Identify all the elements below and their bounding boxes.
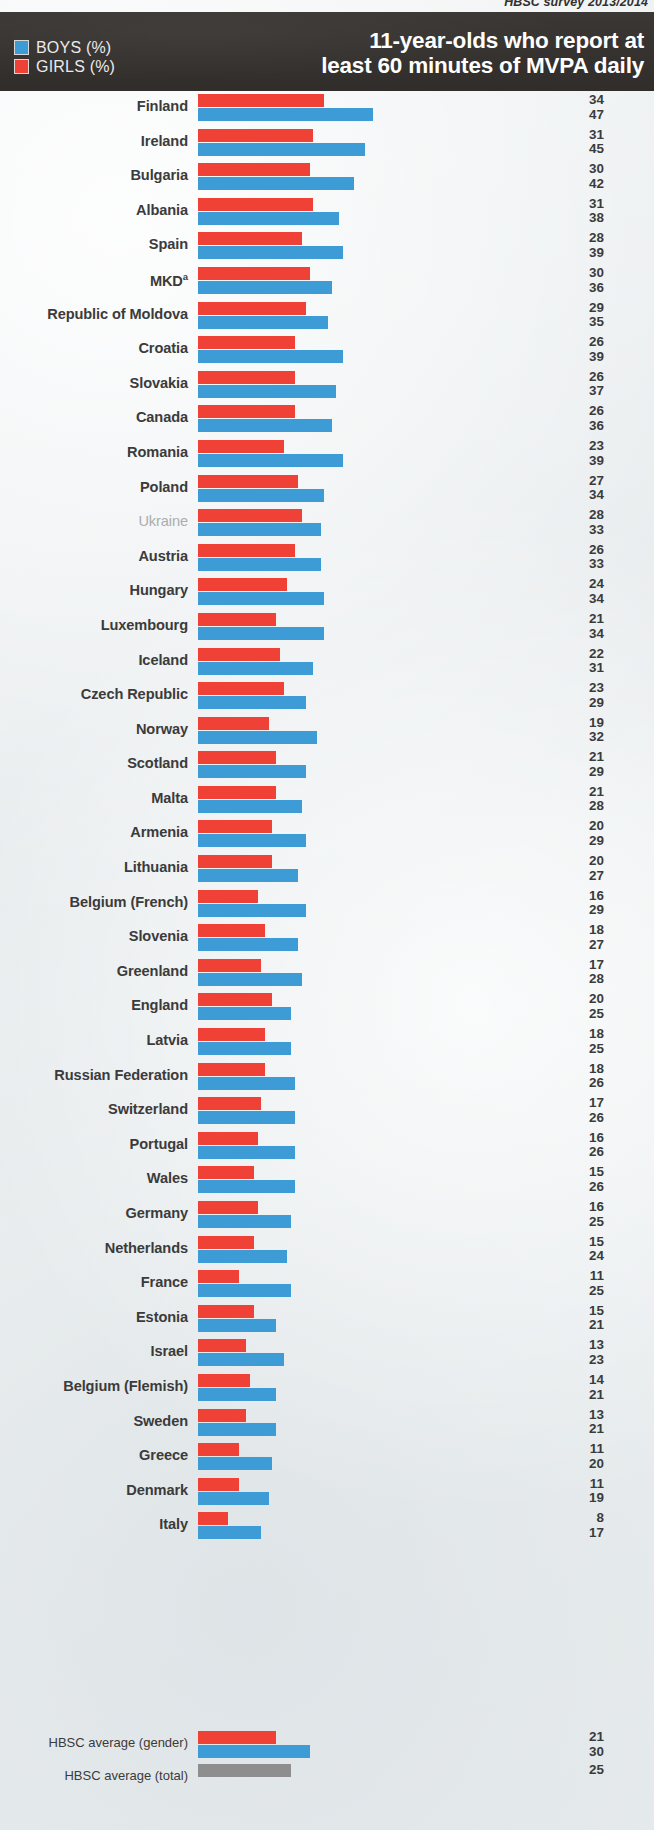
legend: BOYS (%) GIRLS (%) bbox=[14, 38, 115, 76]
value-boys: 26 bbox=[560, 1180, 604, 1195]
average-value-boys: 30 bbox=[560, 1745, 604, 1760]
value-girls: 31 bbox=[560, 197, 604, 212]
value-labels: 1119 bbox=[560, 1477, 604, 1506]
average-total-bars bbox=[198, 1764, 291, 1777]
country-label: England bbox=[0, 997, 188, 1013]
country-label: Belgium (Flemish) bbox=[0, 1378, 188, 1394]
value-labels: 2434 bbox=[560, 577, 604, 606]
bar-boys bbox=[198, 800, 302, 813]
table-row: Germany1625 bbox=[0, 1198, 654, 1233]
table-row: Republic of Moldova2935 bbox=[0, 299, 654, 334]
value-girls: 13 bbox=[560, 1338, 604, 1353]
legend-label-boys: BOYS (%) bbox=[36, 39, 111, 57]
table-row: Scotland2129 bbox=[0, 748, 654, 783]
bar-girls bbox=[198, 129, 313, 142]
table-row: Malta2128 bbox=[0, 783, 654, 818]
value-girls: 8 bbox=[560, 1511, 604, 1526]
value-boys: 38 bbox=[560, 211, 604, 226]
legend-swatch-boys bbox=[14, 40, 29, 55]
country-name: Switzerland bbox=[108, 1101, 188, 1117]
country-name: Estonia bbox=[136, 1309, 188, 1325]
table-row: Italy817 bbox=[0, 1509, 654, 1544]
country-label: Portugal bbox=[0, 1136, 188, 1152]
country-name: Greenland bbox=[117, 963, 188, 979]
value-boys: 29 bbox=[560, 903, 604, 918]
value-labels: 2639 bbox=[560, 335, 604, 364]
bar-group bbox=[198, 1512, 261, 1539]
value-boys: 29 bbox=[560, 765, 604, 780]
country-label: Croatia bbox=[0, 340, 188, 356]
bar-girls bbox=[198, 94, 324, 107]
bar-girls bbox=[198, 1166, 254, 1179]
value-boys: 28 bbox=[560, 972, 604, 987]
table-row: Wales1526 bbox=[0, 1163, 654, 1198]
value-labels: 1827 bbox=[560, 923, 604, 952]
bar-group bbox=[198, 1478, 269, 1505]
bar-group bbox=[198, 94, 373, 121]
value-labels: 2025 bbox=[560, 992, 604, 1021]
value-boys: 47 bbox=[560, 108, 604, 123]
bar-group bbox=[198, 613, 324, 640]
bar-boys bbox=[198, 419, 332, 432]
value-boys: 42 bbox=[560, 177, 604, 192]
value-girls: 26 bbox=[560, 370, 604, 385]
table-row: Canada2636 bbox=[0, 402, 654, 437]
value-labels: 817 bbox=[560, 1511, 604, 1540]
value-girls: 23 bbox=[560, 681, 604, 696]
value-girls: 15 bbox=[560, 1304, 604, 1319]
value-boys: 37 bbox=[560, 384, 604, 399]
value-labels: 2129 bbox=[560, 750, 604, 779]
bar-group bbox=[198, 475, 324, 502]
country-label: Belgium (French) bbox=[0, 894, 188, 910]
chart-title-line2: least 60 minutes of MVPA daily bbox=[224, 53, 644, 78]
value-labels: 1625 bbox=[560, 1200, 604, 1229]
value-boys: 28 bbox=[560, 799, 604, 814]
value-girls: 19 bbox=[560, 716, 604, 731]
bar-group bbox=[198, 302, 328, 329]
bar-girls bbox=[198, 267, 310, 280]
bar-group bbox=[198, 163, 354, 190]
value-girls: 15 bbox=[560, 1165, 604, 1180]
footnote-marker: a bbox=[183, 271, 188, 282]
bar-girls bbox=[198, 440, 284, 453]
country-name: Finland bbox=[137, 98, 188, 114]
legend-item-boys: BOYS (%) bbox=[14, 38, 115, 57]
table-row: Sweden1321 bbox=[0, 1406, 654, 1441]
table-row: Latvia1825 bbox=[0, 1025, 654, 1060]
country-name: Israel bbox=[150, 1343, 188, 1359]
country-name: Slovakia bbox=[130, 375, 188, 391]
value-boys: 27 bbox=[560, 938, 604, 953]
bar-group bbox=[198, 578, 324, 605]
bar-girls bbox=[198, 648, 280, 661]
bar-girls bbox=[198, 544, 295, 557]
country-name: Iceland bbox=[138, 652, 188, 668]
country-name: Slovenia bbox=[129, 928, 188, 944]
bar-group bbox=[198, 1374, 276, 1401]
table-row: Netherlands1524 bbox=[0, 1233, 654, 1268]
bar-boys bbox=[198, 212, 339, 225]
value-girls: 30 bbox=[560, 162, 604, 177]
bar-group bbox=[198, 405, 332, 432]
bar-boys bbox=[198, 108, 373, 121]
value-boys: 19 bbox=[560, 1491, 604, 1506]
bar-girls bbox=[198, 336, 295, 349]
value-boys: 34 bbox=[560, 627, 604, 642]
bar-boys bbox=[198, 1353, 284, 1366]
table-row: Austria2633 bbox=[0, 541, 654, 576]
country-label: Canada bbox=[0, 409, 188, 425]
value-labels: 1726 bbox=[560, 1096, 604, 1125]
country-label: Hungary bbox=[0, 582, 188, 598]
bar-girls bbox=[198, 613, 276, 626]
value-boys: 39 bbox=[560, 246, 604, 261]
value-labels: 3036 bbox=[560, 266, 604, 295]
value-boys: 24 bbox=[560, 1249, 604, 1264]
bar-boys bbox=[198, 938, 298, 951]
table-row: MKDa3036 bbox=[0, 264, 654, 299]
bar-girls bbox=[198, 1270, 239, 1283]
country-label: Italy bbox=[0, 1516, 188, 1532]
value-girls: 18 bbox=[560, 923, 604, 938]
legend-label-girls: GIRLS (%) bbox=[36, 58, 115, 76]
table-row: Finland3447 bbox=[0, 91, 654, 126]
bar-group bbox=[198, 1201, 291, 1228]
country-name: Ireland bbox=[141, 133, 188, 149]
